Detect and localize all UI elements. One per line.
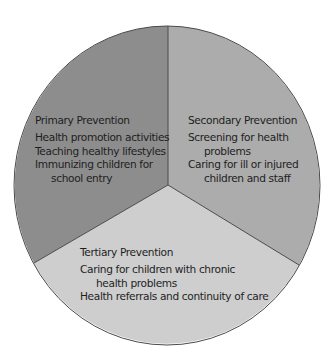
list-item: Caring for ill or injured bbox=[188, 158, 298, 171]
list-item: Teaching healthy lifestyles bbox=[35, 145, 169, 158]
list-item: Immunizing children for bbox=[35, 158, 169, 171]
list-item: Caring for children with chronic bbox=[80, 263, 268, 276]
secondary-prevention-label: Secondary Prevention Screening for healt… bbox=[188, 114, 298, 185]
list-item: Health promotion activities bbox=[35, 131, 169, 144]
tertiary-prevention-label: Tertiary Prevention Caring for children … bbox=[80, 246, 268, 304]
primary-prevention-label: Primary Prevention Health promotion acti… bbox=[35, 114, 169, 185]
list-item: health problems bbox=[80, 277, 268, 290]
list-item: school entry bbox=[35, 172, 169, 185]
list-item: Health referrals and continuity of care bbox=[80, 290, 268, 303]
list-item: children and staff bbox=[188, 172, 298, 185]
list-item: problems bbox=[188, 145, 298, 158]
section-title: Secondary Prevention bbox=[188, 114, 298, 127]
section-title: Primary Prevention bbox=[35, 114, 169, 127]
section-title: Tertiary Prevention bbox=[80, 246, 268, 259]
list-item: Screening for health bbox=[188, 131, 298, 144]
